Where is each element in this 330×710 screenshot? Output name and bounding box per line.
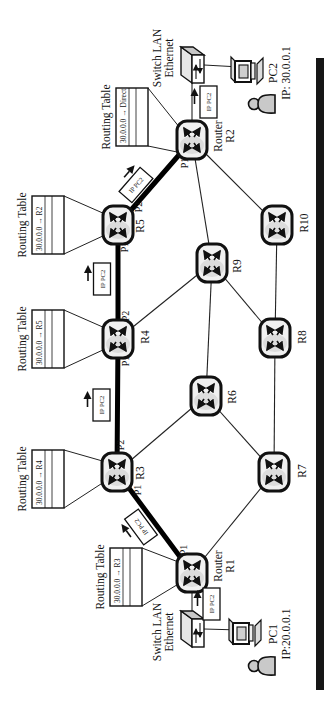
pc2-computer-icon bbox=[231, 57, 263, 84]
routing-table-r3: Routing Table 30.0.0.0 → R4 bbox=[16, 446, 64, 511]
routing-table-r3-title: Routing Table bbox=[16, 446, 29, 511]
switch-left-label-line1: Switch LAN bbox=[151, 602, 163, 661]
pc1-label: PC1 bbox=[267, 624, 279, 644]
router-r2-label-line2: R2 bbox=[224, 129, 236, 143]
routing-table-r2-title: Routing Table bbox=[100, 84, 113, 149]
router-r2-label-line1: Router bbox=[212, 120, 224, 151]
router-r8-icon bbox=[260, 319, 290, 357]
switch-left-icon bbox=[181, 611, 204, 647]
rotated-landscape-canvas: Routing Table 30.0.0.0 → R3 Routing Tabl… bbox=[0, 0, 330, 710]
callout-r3-left bbox=[64, 482, 104, 508]
router-r10-icon bbox=[262, 206, 292, 244]
router-r9-label: R9 bbox=[231, 259, 243, 273]
routing-table-r5-title: Routing Table bbox=[16, 192, 29, 257]
figure-network-routing-diagram: Routing Table 30.0.0.0 → R3 Routing Tabl… bbox=[0, 0, 330, 710]
router-r1-icon bbox=[177, 554, 207, 592]
callout-r3-right bbox=[64, 450, 106, 462]
port-label-r3-p2: P2 bbox=[115, 440, 126, 451]
pc1-person-icon bbox=[249, 657, 276, 675]
packet-ip-pc2-r5-r2: IP PC2 bbox=[112, 161, 153, 203]
switch-left-label-line2: Ethernet bbox=[163, 612, 175, 652]
callout-r5-left bbox=[64, 235, 105, 254]
router-r4-label: R4 bbox=[139, 330, 151, 344]
port-label-r4-p2: P2 bbox=[120, 311, 131, 322]
router-r1-label-line2: R1 bbox=[224, 559, 236, 573]
switch-right-label-line2: Ethernet bbox=[163, 38, 175, 78]
routing-table-r4: Routing Table 30.0.0.0 → R5 bbox=[16, 306, 64, 371]
packet-label: IP PC2 bbox=[205, 93, 212, 111]
router-r6-icon bbox=[191, 377, 221, 415]
routing-table-r4-entry: 30.0.0.0 → R5 bbox=[35, 320, 44, 365]
callout-r4-left bbox=[64, 349, 105, 368]
routing-table-r5-entry: 30.0.0.0 → R2 bbox=[35, 206, 44, 251]
packet-ip-pc2-r3-r4: IP PC2 bbox=[84, 389, 111, 421]
routing-table-r1-title: Routing Table bbox=[94, 544, 107, 609]
callout-r4-right bbox=[64, 310, 105, 328]
router-r4-icon bbox=[103, 320, 133, 358]
pc2-label: PC2 bbox=[267, 63, 279, 83]
router-r1-label-line1: Router bbox=[212, 550, 224, 581]
router-r3-icon bbox=[102, 453, 132, 491]
router-r6-label: R6 bbox=[226, 390, 238, 404]
callout-r5-right bbox=[64, 196, 105, 214]
packet-arrow-icon bbox=[84, 391, 92, 399]
pc1-ip-label: IP:20.0.0.1 bbox=[280, 608, 292, 659]
port-label-r1-p1: P1 bbox=[178, 545, 189, 556]
router-r10-label: R10 bbox=[298, 213, 310, 232]
router-r5-icon bbox=[103, 206, 133, 244]
pc1-computer-icon bbox=[229, 619, 261, 646]
packet-arrow-icon bbox=[84, 265, 92, 273]
switch-right-label-line1: Switch LAN bbox=[151, 28, 163, 87]
pc2-person-icon bbox=[249, 95, 276, 113]
packet-label: IP PC2 bbox=[98, 396, 105, 414]
routing-table-r1-entry: 30.0.0.0 → R3 bbox=[113, 558, 122, 603]
port-label-r5-p1: P1 bbox=[119, 242, 130, 253]
routing-table-r4-title: Routing Table bbox=[16, 306, 29, 371]
router-r8-label: R8 bbox=[296, 330, 308, 344]
routing-table-r2-entry: 30.0.0.0 → Direct bbox=[119, 88, 128, 143]
diagram-svg: Routing Table 30.0.0.0 → R3 Routing Tabl… bbox=[0, 0, 330, 710]
pc2-ip-label: IP: 30.0.0.1 bbox=[280, 46, 292, 100]
routing-table-r1: Routing Table 30.0.0.0 → R3 bbox=[94, 544, 142, 609]
port-label-r2-p1: P1 bbox=[179, 158, 190, 169]
router-r3-label: R3 bbox=[134, 466, 146, 480]
routing-table-r5: Routing Table 30.0.0.0 → R2 bbox=[16, 192, 64, 257]
router-r2-icon bbox=[177, 121, 207, 159]
port-label-r5-p2: P2 bbox=[133, 202, 144, 213]
port-label-r4-p1: P1 bbox=[120, 356, 131, 367]
routing-table-r2: Routing Table 30.0.0.0 → Direct bbox=[100, 84, 148, 149]
port-label-r3-p1: P1 bbox=[132, 485, 143, 496]
packet-ip-pc2-r4-r5: IP PC2 bbox=[84, 263, 111, 295]
router-r5-label: R5 bbox=[134, 219, 146, 233]
packet-ip-pc2-near-pc2: IP PC2 bbox=[191, 86, 218, 118]
router-r7-label: R7 bbox=[296, 464, 308, 478]
routing-table-r3-entry: 30.0.0.0 → R4 bbox=[35, 460, 44, 505]
packet-label: IP PC2 bbox=[208, 595, 215, 613]
switch-right-icon bbox=[181, 47, 204, 83]
figure-rule bbox=[316, 58, 324, 690]
packet-label: IP PC2 bbox=[99, 270, 106, 288]
router-r9-icon bbox=[197, 244, 227, 282]
router-r7-icon bbox=[259, 453, 289, 491]
